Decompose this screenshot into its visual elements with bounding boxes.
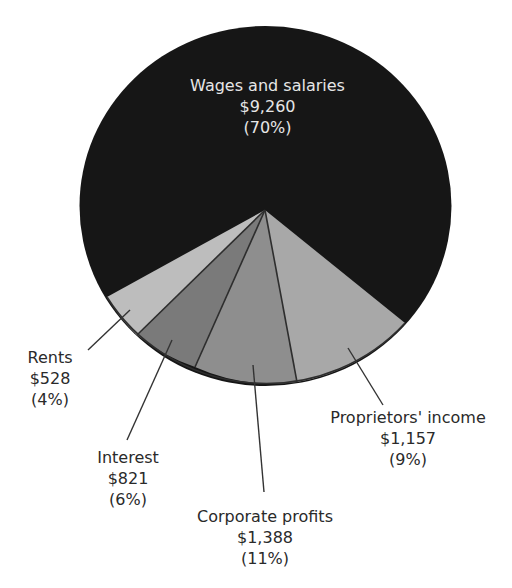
slice-name: Corporate profits (190, 506, 340, 527)
slice-percent: (70%) (185, 117, 350, 138)
slice-value: $528 (15, 368, 85, 389)
slice-percent: (6%) (88, 489, 168, 510)
slice-value: $1,388 (190, 527, 340, 548)
slice-percent: (11%) (190, 548, 340, 569)
slice-name: Wages and salaries (185, 75, 350, 96)
label-proprietors-income: Proprietors' income $1,157 (9%) (318, 407, 498, 470)
slice-name: Rents (15, 347, 85, 368)
label-corporate-profits: Corporate profits $1,388 (11%) (190, 506, 340, 569)
slice-value: $9,260 (185, 96, 350, 117)
label-rents: Rents $528 (4%) (15, 347, 85, 410)
slice-value: $821 (88, 468, 168, 489)
slice-name: Interest (88, 447, 168, 468)
slice-percent: (4%) (15, 389, 85, 410)
slice-value: $1,157 (318, 428, 498, 449)
label-wages-and-salaries: Wages and salaries $9,260 (70%) (185, 75, 350, 138)
label-interest: Interest $821 (6%) (88, 447, 168, 510)
leader-line-rents (88, 310, 130, 350)
slice-name: Proprietors' income (318, 407, 498, 428)
leader-line-interest (127, 340, 172, 440)
slice-percent: (9%) (318, 449, 498, 470)
